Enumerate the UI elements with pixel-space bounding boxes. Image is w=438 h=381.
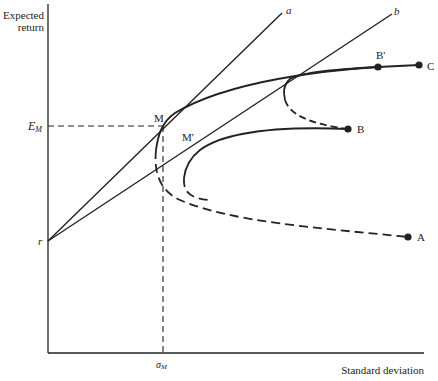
point-a-label: A bbox=[417, 231, 425, 243]
em-label: EM bbox=[27, 119, 43, 134]
point-c-label: C bbox=[427, 60, 434, 72]
sigma-label-sub: M bbox=[160, 363, 168, 371]
point-b bbox=[344, 125, 351, 132]
line-b-label: b bbox=[394, 5, 400, 17]
inner-frontier bbox=[184, 128, 348, 200]
point-b-label: B bbox=[357, 123, 364, 135]
y-axis-label-line2: return bbox=[18, 21, 45, 33]
bprime-loop-dashed bbox=[285, 100, 348, 129]
em-label-sub: M bbox=[34, 125, 43, 134]
bprime-loop bbox=[284, 67, 378, 129]
sigma-m-label: σM bbox=[156, 359, 168, 371]
points bbox=[344, 61, 422, 240]
outer-frontier-solid bbox=[156, 65, 419, 150]
y-axis-label-line1: Expected bbox=[3, 9, 44, 21]
outer-frontier bbox=[156, 65, 419, 237]
outer-frontier-dashed bbox=[156, 150, 408, 237]
reference-lines bbox=[48, 126, 163, 356]
point-a bbox=[404, 233, 411, 240]
point-m-prime-label: M' bbox=[182, 131, 194, 143]
efficient-frontier-diagram: Expected return Standard deviation EM σM… bbox=[0, 0, 438, 381]
line-a-label: a bbox=[286, 4, 292, 16]
point-c bbox=[415, 61, 422, 68]
line-b bbox=[48, 14, 392, 241]
x-axis-label: Standard deviation bbox=[341, 364, 424, 376]
point-m-label: M bbox=[154, 112, 164, 124]
line-a bbox=[48, 13, 282, 241]
point-b-prime bbox=[374, 63, 381, 70]
axes bbox=[48, 4, 424, 353]
inner-frontier-dashed bbox=[184, 178, 208, 200]
capital-market-lines bbox=[48, 13, 392, 241]
point-b-prime-label: B' bbox=[376, 49, 385, 61]
r-label: r bbox=[38, 235, 43, 247]
